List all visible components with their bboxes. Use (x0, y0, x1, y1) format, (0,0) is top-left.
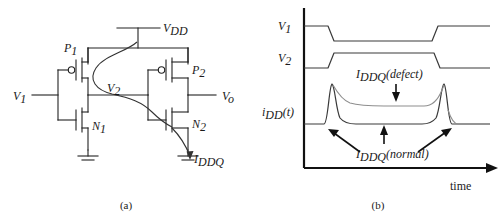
label-n2: N2 (191, 117, 206, 134)
x-axis-arrowhead (486, 163, 498, 173)
waveform-idd-defect (333, 85, 444, 106)
ground-symbol-n1 (78, 150, 98, 160)
subcaption-b: (b) (252, 199, 504, 211)
label-iddq: IDDQ (193, 152, 224, 169)
vdd-supply-symbol (117, 28, 160, 48)
panel-b-waveforms: V1 V2 iDD(t) IDDQ(defect) IDDQ(normal) t… (252, 0, 504, 219)
transistor-n2 (148, 95, 188, 150)
label-vdd: VDD (163, 21, 188, 38)
label-waveform-idd: iDD(t) (262, 105, 294, 122)
iddq-arrow (172, 128, 194, 160)
annotation-arrow-normal (380, 125, 388, 144)
defect-current-path (93, 42, 172, 127)
input-bus-left (32, 70, 58, 120)
label-time-axis: time (450, 179, 471, 193)
label-v1: V1 (13, 89, 26, 106)
transistor-p2 (148, 48, 188, 95)
circuit-schematic-svg: VDD V1 V2 Vo P1 P2 N1 N2 IDDQ (0, 0, 252, 219)
figure-container: VDD V1 V2 Vo P1 P2 N1 N2 IDDQ (a) (0, 0, 504, 219)
waveform-chart-svg: V1 V2 iDD(t) IDDQ(defect) IDDQ(normal) t… (252, 0, 504, 219)
waveform-v1 (304, 26, 490, 41)
panel-a-circuit: VDD V1 V2 Vo P1 P2 N1 N2 IDDQ (a) (0, 0, 252, 219)
label-waveform-v2: V2 (278, 51, 291, 68)
label-iddq-defect: IDDQ(defect) (355, 67, 423, 84)
label-vo: Vo (222, 89, 234, 106)
label-p1: P1 (63, 41, 77, 58)
label-p2: P2 (191, 63, 205, 80)
label-n1: N1 (91, 119, 106, 136)
subcaption-a: (a) (0, 199, 252, 211)
label-waveform-v1: V1 (278, 19, 291, 36)
waveform-idd-normal (304, 84, 490, 124)
label-iddq-normal: IDDQ(normal) (355, 147, 429, 164)
waveform-v2 (304, 53, 490, 68)
annotation-arrow-defect (392, 84, 400, 102)
transistor-n1 (58, 95, 88, 150)
waveform-idd-defect-tail (448, 110, 490, 124)
